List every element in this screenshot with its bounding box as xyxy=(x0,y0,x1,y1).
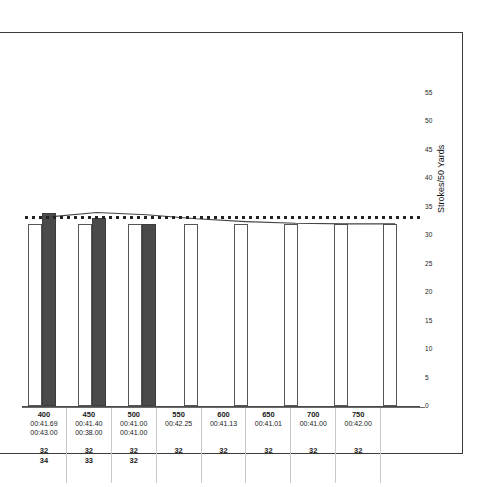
y-axis-tick-20: 20 xyxy=(425,288,449,295)
table-cell-time-2 xyxy=(246,428,290,437)
bar-white-700 xyxy=(334,224,348,406)
table-column-empty xyxy=(381,408,425,483)
table-cell-time-1 xyxy=(381,419,425,428)
bar-dark-450 xyxy=(92,218,106,406)
y-axis-title: Strokes/50 Yards xyxy=(436,145,446,213)
table-cell-strokes-2: 32 xyxy=(112,456,156,466)
y-axis-tick-30: 30 xyxy=(425,231,449,238)
table-cell-time-1: 00:41.69 xyxy=(22,419,66,428)
y-axis-tick-25: 25 xyxy=(425,260,449,267)
table-cell-strokes-2: 34 xyxy=(22,456,66,466)
y-axis-tick-55: 55 xyxy=(425,89,449,96)
table-cell-time-2 xyxy=(381,428,425,437)
table-cell-spacer xyxy=(381,437,425,446)
table-cell-spacer xyxy=(22,437,66,446)
bar-white-450 xyxy=(78,224,92,406)
y-axis-tick-0: 0 xyxy=(425,402,449,409)
table-cell-spacer xyxy=(336,437,380,446)
table-cell-strokes-1: 32 xyxy=(246,446,290,456)
table-cell-time-1: 00:42.00 xyxy=(336,419,380,428)
table-cell-strokes-2 xyxy=(336,456,380,466)
plot-area xyxy=(22,93,425,407)
bar-white-650 xyxy=(284,224,298,406)
table-cell-strokes-1: 32 xyxy=(202,446,246,456)
table-cell-strokes-1: 32 xyxy=(157,446,201,456)
table-cell-strokes-2 xyxy=(291,456,335,466)
bar-white-500 xyxy=(128,224,142,406)
table-cell-distance: 700 xyxy=(291,410,335,419)
table-cell-distance: 450 xyxy=(67,410,111,419)
bar-white-750 xyxy=(383,224,397,406)
table-cell-time-1: 00:41.13 xyxy=(202,419,246,428)
table-cell-strokes-1 xyxy=(381,446,425,456)
table-cell-time-1: 00:41.00 xyxy=(112,419,156,428)
table-cell-time-1: 00:41.01 xyxy=(246,419,290,428)
table-cell-spacer xyxy=(112,437,156,446)
bar-white-550 xyxy=(184,224,198,406)
table-cell-distance: 400 xyxy=(22,410,66,419)
table-cell-time-2 xyxy=(291,428,335,437)
bar-white-400 xyxy=(28,224,42,406)
table-cell-distance xyxy=(381,410,425,419)
table-cell-strokes-1: 32 xyxy=(67,446,111,456)
table-cell-strokes-2 xyxy=(202,456,246,466)
table-cell-time-2 xyxy=(157,428,201,437)
table-cell-time-1: 00:41.40 xyxy=(67,419,111,428)
table-column-650: 65000:41.01 32 xyxy=(246,408,291,483)
table-cell-time-1: 00:41.00 xyxy=(291,419,335,428)
y-axis-tick-10: 10 xyxy=(425,345,449,352)
chart-frame: 0510152025303540455055 Strokes/50 Yards … xyxy=(0,32,463,454)
table-cell-strokes-1: 32 xyxy=(291,446,335,456)
table-cell-strokes-2: 33 xyxy=(67,456,111,466)
y-axis-tick-15: 15 xyxy=(425,317,449,324)
table-cell-strokes-2 xyxy=(381,456,425,466)
table-cell-distance: 550 xyxy=(157,410,201,419)
table-cell-time-2: 00:38.00 xyxy=(67,428,111,437)
table-cell-time-2: 00:41.00 xyxy=(112,428,156,437)
bar-dark-500 xyxy=(142,224,156,406)
data-table: 40000:41.6900:43.00 323445000:41.4000:38… xyxy=(22,407,425,483)
table-cell-strokes-2 xyxy=(246,456,290,466)
table-cell-distance: 750 xyxy=(336,410,380,419)
y-axis-tick-50: 50 xyxy=(425,117,449,124)
table-cell-spacer xyxy=(202,437,246,446)
table-cell-spacer xyxy=(246,437,290,446)
table-cell-time-1: 00:42.25 xyxy=(157,419,201,428)
table-cell-strokes-1: 32 xyxy=(336,446,380,456)
table-cell-time-2 xyxy=(336,428,380,437)
table-cell-distance: 500 xyxy=(112,410,156,419)
table-cell-spacer xyxy=(67,437,111,446)
y-axis: 0510152025303540455055 xyxy=(425,93,449,413)
table-cell-strokes-1: 32 xyxy=(112,446,156,456)
table-column-750: 75000:42.00 32 xyxy=(336,408,381,483)
table-column-400: 40000:41.6900:43.00 3234 xyxy=(22,408,67,483)
table-column-450: 45000:41.4000:38.00 3233 xyxy=(67,408,112,483)
reference-dotted-line xyxy=(25,216,420,219)
table-column-700: 70000:41.00 32 xyxy=(291,408,336,483)
table-column-500: 50000:41.0000:41.00 3232 xyxy=(112,408,157,483)
table-cell-time-2 xyxy=(202,428,246,437)
table-column-550: 55000:42.25 32 xyxy=(157,408,202,483)
table-column-600: 60000:41.13 32 xyxy=(202,408,247,483)
bar-dark-400 xyxy=(42,213,56,406)
table-cell-time-2: 00:43.00 xyxy=(22,428,66,437)
y-axis-tick-5: 5 xyxy=(425,374,449,381)
bar-white-600 xyxy=(234,224,248,406)
table-cell-distance: 650 xyxy=(246,410,290,419)
table-cell-distance: 600 xyxy=(202,410,246,419)
table-cell-spacer xyxy=(157,437,201,446)
table-cell-strokes-2 xyxy=(157,456,201,466)
table-cell-strokes-1: 32 xyxy=(22,446,66,456)
table-cell-spacer xyxy=(291,437,335,446)
